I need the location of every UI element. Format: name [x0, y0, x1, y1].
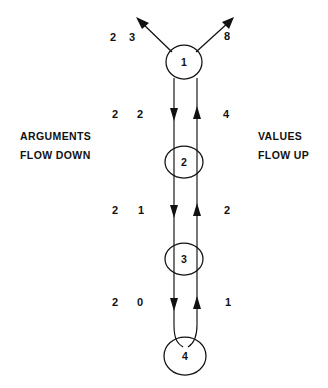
node-4-label: 4 — [182, 350, 188, 362]
recursion-diagram: 1 2 3 4 2 3 2 2 2 1 2 0 8 4 2 1 ARGUMENT… — [0, 0, 328, 388]
level-2-3-value-label: 2 — [224, 205, 230, 216]
arguments-flow-down-line2: FLOW DOWN — [20, 150, 91, 161]
diagram-canvas: 1 2 3 4 — [0, 0, 328, 388]
level-2-3-argument-second-label: 1 — [138, 205, 144, 216]
argument-flow-down-path — [170, 78, 183, 347]
top-argument-first-label: 2 — [110, 32, 116, 43]
node-3-label: 3 — [181, 253, 187, 265]
arrowhead-up-1 — [193, 106, 201, 119]
level-2-3-argument-first-label: 2 — [112, 205, 118, 216]
arrowhead-up-3 — [193, 296, 201, 309]
arrowhead-down-3 — [170, 298, 178, 311]
node-1: 1 — [166, 45, 202, 79]
level-1-2-value-label: 4 — [223, 109, 229, 120]
node-1-label: 1 — [181, 56, 187, 68]
level-3-4-value-label: 1 — [225, 297, 231, 308]
values-flow-up-line2: FLOW UP — [258, 150, 309, 161]
values-flow-up-line1: VALUES — [258, 131, 302, 142]
incoming-argument-arrow — [136, 17, 172, 52]
top-value-label: 8 — [224, 31, 230, 42]
level-1-2-argument-second-label: 2 — [137, 109, 143, 120]
level-3-4-argument-first-label: 2 — [112, 297, 118, 308]
arrowhead-down-1 — [170, 108, 178, 121]
node-2-label: 2 — [181, 156, 187, 168]
node-4: 4 — [164, 337, 206, 375]
value-flow-up-path — [188, 78, 201, 347]
arrowhead-up-2 — [193, 203, 201, 216]
level-3-4-argument-second-label: 0 — [137, 297, 143, 308]
top-argument-second-label: 3 — [129, 32, 135, 43]
level-1-2-argument-first-label: 2 — [112, 109, 118, 120]
arrowhead-down-2 — [170, 205, 178, 218]
arguments-flow-down-line1: ARGUMENTS — [20, 131, 91, 142]
